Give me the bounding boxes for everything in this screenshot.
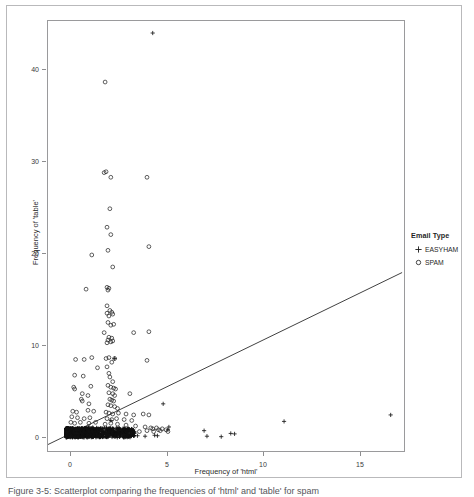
data-point-circle <box>86 408 90 412</box>
data-point-circle <box>109 175 113 179</box>
x-tick-mark <box>360 452 361 456</box>
y-axis-title: Frequency of 'table' <box>31 153 40 313</box>
data-point-circle <box>147 245 151 249</box>
y-tick-label: 0 <box>23 434 39 441</box>
data-point-circle <box>71 409 75 413</box>
data-point-circle <box>108 375 112 379</box>
y-tick-label: 40 <box>23 66 39 73</box>
data-point-circle <box>88 416 92 420</box>
data-point-circle <box>82 417 86 421</box>
data-point-circle <box>130 419 134 423</box>
data-point-circle <box>143 425 147 429</box>
figure-caption: Figure 3-5: Scatterplot comparing the fr… <box>8 486 466 497</box>
data-point-circle <box>103 80 107 84</box>
data-point-plus <box>205 434 209 438</box>
data-point-circle <box>107 371 111 375</box>
data-point-circle <box>132 413 136 417</box>
data-point-circle <box>87 402 91 406</box>
data-point-circle <box>80 392 84 396</box>
data-point-circle <box>107 391 111 395</box>
y-tick-mark <box>42 161 46 162</box>
data-point-circle <box>128 392 132 396</box>
regression-line <box>48 273 402 445</box>
data-point-circle <box>124 412 128 416</box>
data-point-circle <box>96 366 100 370</box>
data-point-plus <box>135 434 139 438</box>
figure-card: 0 10 20 30 40 0 5 10 15 Frequency of 'ht… <box>6 5 462 478</box>
legend-item-easyham[interactable]: EASYHAM <box>411 245 473 254</box>
legend-label-easyham: EASYHAM <box>425 245 458 254</box>
plus-marker-icon <box>411 246 425 253</box>
series-spam <box>69 80 170 433</box>
y-tick-mark <box>42 69 46 70</box>
y-tick-label: 10 <box>23 342 39 349</box>
data-point-circle <box>69 420 73 424</box>
data-point-circle <box>132 331 136 335</box>
data-point-circle <box>111 380 115 384</box>
data-point-circle <box>105 225 109 229</box>
data-point-circle <box>124 423 128 427</box>
legend: Email Type EASYHAM SPAM <box>411 231 473 271</box>
data-point-plus <box>161 402 165 406</box>
data-point-plus <box>219 435 223 439</box>
data-point-plus <box>229 431 233 435</box>
data-point-circle <box>108 207 112 211</box>
data-point-circle <box>137 430 141 434</box>
plot-canvas <box>48 21 404 451</box>
legend-title: Email Type <box>411 231 473 240</box>
data-point-circle <box>76 416 80 420</box>
data-point-circle <box>103 422 107 426</box>
data-point-plus <box>153 433 157 437</box>
data-point-circle <box>84 287 88 291</box>
data-point-circle <box>110 360 114 364</box>
data-point-circle <box>86 394 90 398</box>
legend-item-spam[interactable]: SPAM <box>411 258 473 267</box>
data-point-circle <box>73 421 77 425</box>
data-point-circle <box>90 253 94 257</box>
data-point-circle <box>115 417 119 421</box>
dense-point-cluster <box>64 426 136 439</box>
data-point-circle <box>147 330 151 334</box>
data-point-circle <box>111 265 115 269</box>
data-point-circle <box>141 412 145 416</box>
x-tick-mark <box>167 452 168 456</box>
data-point-circle <box>89 384 93 388</box>
x-tick-mark <box>70 452 71 456</box>
series-easyham <box>69 31 393 439</box>
y-tick-mark <box>42 253 46 254</box>
data-point-plus <box>166 428 170 432</box>
open-circle-marker-icon <box>411 259 425 266</box>
figure-page: 0 10 20 30 40 0 5 10 15 Frequency of 'ht… <box>0 0 474 497</box>
data-point-circle <box>105 304 109 308</box>
data-point-circle <box>105 417 109 421</box>
data-point-circle <box>107 314 111 318</box>
data-point-circle <box>106 248 110 252</box>
data-point-circle <box>116 422 120 426</box>
data-point-circle <box>145 175 149 179</box>
scatter-plot-panel <box>47 20 405 452</box>
data-point-plus <box>143 434 147 438</box>
x-axis-title: Frequency of 'html' <box>47 467 405 476</box>
data-point-circle <box>116 407 120 411</box>
data-point-circle <box>105 365 109 369</box>
data-point-circle <box>109 233 113 237</box>
data-point-circle <box>92 409 96 413</box>
data-point-circle <box>147 413 151 417</box>
data-point-circle <box>74 358 78 362</box>
data-point-circle <box>134 424 138 428</box>
data-point-circle <box>117 411 121 415</box>
data-point-circle <box>90 356 94 360</box>
data-point-plus <box>232 432 236 436</box>
data-point-circle <box>75 410 79 414</box>
data-point-plus <box>282 419 286 423</box>
data-point-circle <box>145 358 149 362</box>
data-point-plus <box>389 413 393 417</box>
data-point-circle <box>81 374 85 378</box>
data-point-circle <box>73 373 77 377</box>
data-point-plus <box>151 31 155 35</box>
data-point-circle <box>145 429 149 433</box>
data-point-circle <box>82 358 86 362</box>
data-point-circle <box>70 415 74 419</box>
y-tick-mark <box>42 345 46 346</box>
legend-label-spam: SPAM <box>425 258 444 267</box>
